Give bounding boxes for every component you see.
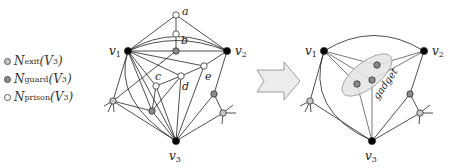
label-b: b bbox=[181, 34, 188, 47]
terminal-node-v1 bbox=[320, 47, 327, 54]
terminal-node-v3 bbox=[368, 137, 375, 144]
gadget-node bbox=[369, 77, 375, 83]
label-v3: v3 bbox=[365, 149, 377, 164]
label-v1: v1 bbox=[305, 44, 317, 59]
exit-node bbox=[220, 110, 226, 116]
prison-node-e bbox=[201, 63, 207, 69]
guard-node bbox=[173, 48, 179, 54]
prison-node-a bbox=[173, 12, 179, 18]
label-c: c bbox=[155, 70, 161, 83]
prison-node-d bbox=[178, 73, 184, 79]
prison-node-b bbox=[173, 31, 179, 37]
transform-arrow-icon bbox=[257, 62, 300, 100]
gadget-node bbox=[354, 81, 360, 87]
label-d: d bbox=[182, 80, 189, 93]
terminal-node-v1 bbox=[124, 47, 131, 54]
left-graph bbox=[104, 15, 236, 141]
exit-node bbox=[110, 98, 116, 104]
guard-node bbox=[211, 91, 217, 97]
guard-node bbox=[407, 91, 413, 97]
label-v1: v1 bbox=[109, 44, 121, 59]
terminal-node-v3 bbox=[172, 137, 179, 144]
label-v2: v2 bbox=[432, 44, 444, 59]
exit-node bbox=[307, 98, 313, 104]
diagram-canvas: v1 v2 v3 a b c d e bbox=[0, 0, 454, 168]
terminal-node-v2 bbox=[420, 47, 427, 54]
label-v2: v2 bbox=[235, 44, 247, 59]
gadget-node bbox=[374, 62, 380, 68]
guard-node bbox=[149, 108, 155, 114]
label-a: a bbox=[182, 5, 189, 18]
label-v3: v3 bbox=[169, 149, 181, 164]
prison-node-c bbox=[153, 83, 159, 89]
terminal-node-v2 bbox=[223, 47, 230, 54]
label-e: e bbox=[205, 70, 212, 83]
exit-node bbox=[417, 110, 423, 116]
